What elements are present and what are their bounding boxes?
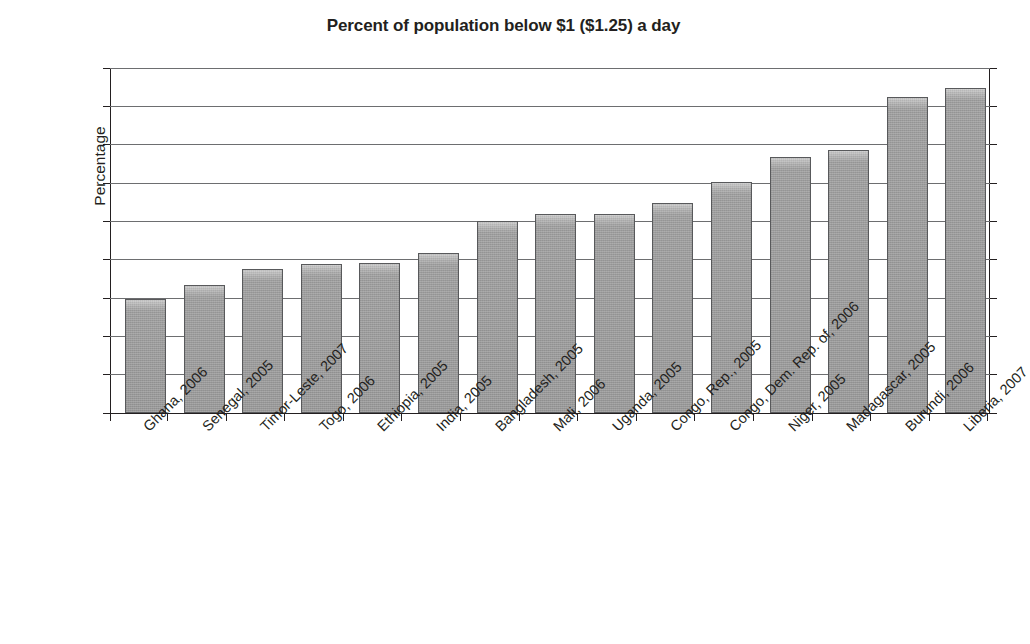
bar-slot bbox=[587, 68, 643, 413]
y-axis-tick-mark bbox=[103, 221, 110, 222]
plot-area: 0102030405060708090 bbox=[110, 68, 990, 413]
bar-series bbox=[110, 68, 990, 413]
y-axis-tick-mark bbox=[103, 144, 110, 145]
bar-slot bbox=[177, 68, 233, 413]
bar-slot bbox=[118, 68, 174, 413]
bar-slot bbox=[352, 68, 408, 413]
y-axis-tick-mark bbox=[103, 413, 110, 414]
y-axis-tick-mark bbox=[103, 106, 110, 107]
y-axis-tick-mark bbox=[103, 183, 110, 184]
y-axis-tick-mark bbox=[103, 374, 110, 375]
y-axis-tick-mark bbox=[103, 336, 110, 337]
chart-title: Percent of population below $1 ($1.25) a… bbox=[0, 16, 1007, 36]
y-axis-tick-mark bbox=[103, 259, 110, 260]
bar-slot bbox=[470, 68, 526, 413]
bar[interactable] bbox=[125, 299, 166, 413]
y-axis-tick-mark bbox=[103, 298, 110, 299]
y-axis-tick-mark bbox=[103, 68, 110, 69]
bar-slot bbox=[821, 68, 877, 413]
x-axis-category-labels: Ghana, 2006Senegal, 2005Timor-Leste, 200… bbox=[110, 413, 1000, 633]
